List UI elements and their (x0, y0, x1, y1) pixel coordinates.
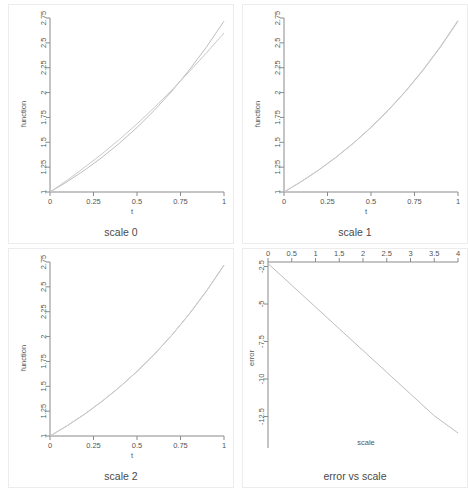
series-line (284, 20, 458, 192)
y-tick-label: 1.75 (39, 354, 48, 369)
x-tick-label: 0.5 (132, 441, 142, 450)
x-tick-label: 1 (313, 249, 317, 258)
panel-title-scale-0: scale 0 (8, 226, 234, 238)
plot-area-error-vs-scale: 00.511.522.533.54-2.5-5-7.5-10-12.5scale… (242, 248, 468, 488)
y-tick-label: 1.5 (39, 381, 48, 391)
x-tick-label: 0 (48, 197, 52, 206)
y-tick-label: -12.5 (257, 408, 266, 425)
y-tick-label: 2.75 (39, 11, 48, 26)
x-tick-label: 0 (282, 197, 286, 206)
y-axis-label: function (19, 345, 28, 371)
series-line (50, 21, 224, 192)
y-tick-label: -2.5 (257, 260, 266, 273)
x-axis-label: scale (357, 438, 375, 447)
x-axis-label: t (131, 207, 134, 216)
x-tick-label: 0.75 (173, 441, 188, 450)
x-axis-label: t (131, 451, 134, 460)
x-tick-label: 3.5 (429, 249, 439, 258)
series-line (50, 265, 224, 436)
y-tick-label: 1.25 (273, 160, 282, 175)
panel-error-vs-scale: 00.511.522.533.54-2.5-5-7.5-10-12.5scale… (242, 248, 468, 488)
y-axis-label: error (247, 350, 256, 366)
y-tick-label: 1.25 (39, 160, 48, 175)
x-tick-label: 0 (266, 249, 270, 258)
x-tick-label: 0.25 (86, 441, 101, 450)
series-line (284, 21, 458, 192)
y-tick-label: 1.75 (39, 110, 48, 125)
x-tick-label: 0.5 (132, 197, 142, 206)
x-tick-label: 4 (456, 249, 460, 258)
x-axis-label: t (365, 207, 368, 216)
x-tick-label: 0 (48, 441, 52, 450)
x-tick-label: 0.25 (86, 197, 101, 206)
y-tick-label: 2.5 (273, 38, 282, 48)
series-line (50, 265, 224, 436)
y-tick-label: 2 (39, 90, 48, 94)
plot-area-scale-2: 00.250.50.75111.251.51.7522.252.52.75tfu… (8, 248, 234, 488)
x-tick-label: 1 (222, 197, 226, 206)
panel-title-scale-2: scale 2 (8, 470, 234, 482)
y-tick-label: 2.25 (39, 304, 48, 319)
y-tick-label: 2 (39, 334, 48, 338)
x-tick-label: 1 (456, 197, 460, 206)
y-tick-label: 1 (273, 190, 282, 194)
y-tick-label: 1.5 (273, 137, 282, 147)
panel-title-error-vs-scale: error vs scale (242, 470, 468, 482)
y-tick-label: 2.75 (39, 255, 48, 270)
y-axis-label: function (19, 101, 28, 127)
x-tick-label: 0.5 (287, 249, 297, 258)
y-tick-label: 2 (273, 90, 282, 94)
x-tick-label: 3 (408, 249, 412, 258)
x-tick-label: 0.5 (366, 197, 376, 206)
plot-area-scale-0: 00.250.50.75111.251.51.7522.252.52.75tfu… (8, 4, 234, 244)
panel-scale-0: 00.250.50.75111.251.51.7522.252.52.75tfu… (8, 4, 234, 244)
y-tick-label: 1.75 (273, 110, 282, 125)
y-tick-label: -5 (257, 301, 266, 308)
panel-title-scale-1: scale 1 (242, 226, 468, 238)
y-tick-label: 2.75 (273, 11, 282, 26)
y-tick-label: -7.5 (257, 335, 266, 348)
y-tick-label: 1 (39, 434, 48, 438)
figure-canvas: 00.250.50.75111.251.51.7522.252.52.75tfu… (0, 0, 468, 488)
y-tick-label: 2.5 (39, 282, 48, 292)
y-tick-label: 2.5 (39, 38, 48, 48)
series-line (268, 264, 458, 434)
x-tick-label: 2.5 (382, 249, 392, 258)
x-tick-label: 0.75 (173, 197, 188, 206)
x-tick-label: 0.25 (320, 197, 335, 206)
panel-scale-2: 00.250.50.75111.251.51.7522.252.52.75tfu… (8, 248, 234, 488)
y-axis-label: function (253, 101, 262, 127)
x-tick-label: 0.75 (407, 197, 422, 206)
y-tick-label: 2.25 (39, 60, 48, 75)
y-tick-label: 1.25 (39, 404, 48, 419)
x-tick-label: 2 (361, 249, 365, 258)
series-line (50, 33, 224, 192)
plot-area-scale-1: 00.250.50.75111.251.51.7522.252.52.75tfu… (242, 4, 468, 244)
y-tick-label: 1.5 (39, 137, 48, 147)
y-tick-label: -10 (257, 374, 266, 385)
x-tick-label: 1.5 (334, 249, 344, 258)
x-tick-label: 1 (222, 441, 226, 450)
panel-scale-1: 00.250.50.75111.251.51.7522.252.52.75tfu… (242, 4, 468, 244)
y-tick-label: 1 (39, 190, 48, 194)
y-tick-label: 2.25 (273, 60, 282, 75)
